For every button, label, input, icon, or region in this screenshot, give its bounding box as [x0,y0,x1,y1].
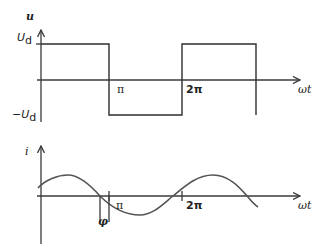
ud-label: Ud [17,31,32,47]
u-axis-label: u [26,10,34,23]
pi-label-upper: π [117,83,124,96]
wt-label-lower: ωt [298,199,312,212]
wt-label-upper: ωt [298,83,312,96]
current-plot [37,146,300,244]
2pi-label-lower: 2π [186,199,203,212]
neg-ud-label: −Ud [12,108,36,124]
phase-label: φ [98,215,108,228]
pi-label-lower: π [116,199,123,212]
2pi-label-upper: 2π [186,83,203,96]
i-axis-label: i [25,145,29,158]
voltage-plot [36,30,300,122]
current-sine-wave [38,175,258,215]
waveform-diagram: u Ud −Ud π 2π ωt i π 2π ωt φ [0,0,321,252]
